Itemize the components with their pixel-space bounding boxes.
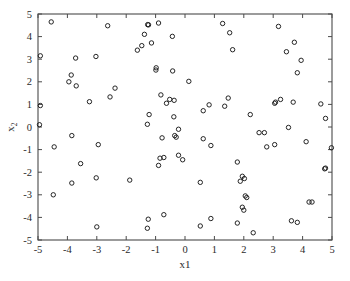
figure-background (0, 0, 350, 281)
x-axis-label: x1 (180, 258, 191, 270)
x-tick-label: -4 (63, 244, 72, 255)
y-tick-label: 1 (27, 99, 32, 110)
x-tick-label: 2 (241, 244, 246, 255)
x-tick-label: 3 (271, 244, 276, 255)
x-tick-label: 5 (329, 244, 334, 255)
x-tick-label: 0 (182, 244, 187, 255)
y-tick-label: 5 (27, 9, 32, 20)
x-tick-label: -5 (34, 244, 43, 255)
y-tick-label: -4 (23, 212, 32, 223)
x-tick-label: 1 (212, 244, 217, 255)
y-tick-label: -1 (23, 144, 32, 155)
y-tick-label: 4 (27, 31, 33, 42)
x-tick-label: 4 (300, 244, 306, 255)
y-tick-label: -2 (23, 167, 32, 178)
y-tick-label: -5 (23, 235, 32, 246)
x-tick-label: -2 (122, 244, 131, 255)
y-tick-label: -3 (23, 189, 32, 200)
y-tick-label: 2 (27, 76, 32, 87)
x-tick-label: -3 (92, 244, 101, 255)
scatter-plot-figure: -5-4-3-2-1012345 -5-4-3-2-1012345 x1 x2 (0, 0, 350, 281)
y-tick-label: 3 (27, 54, 32, 65)
y-tick-label: 0 (27, 122, 32, 133)
x-tick-label: -1 (151, 244, 160, 255)
